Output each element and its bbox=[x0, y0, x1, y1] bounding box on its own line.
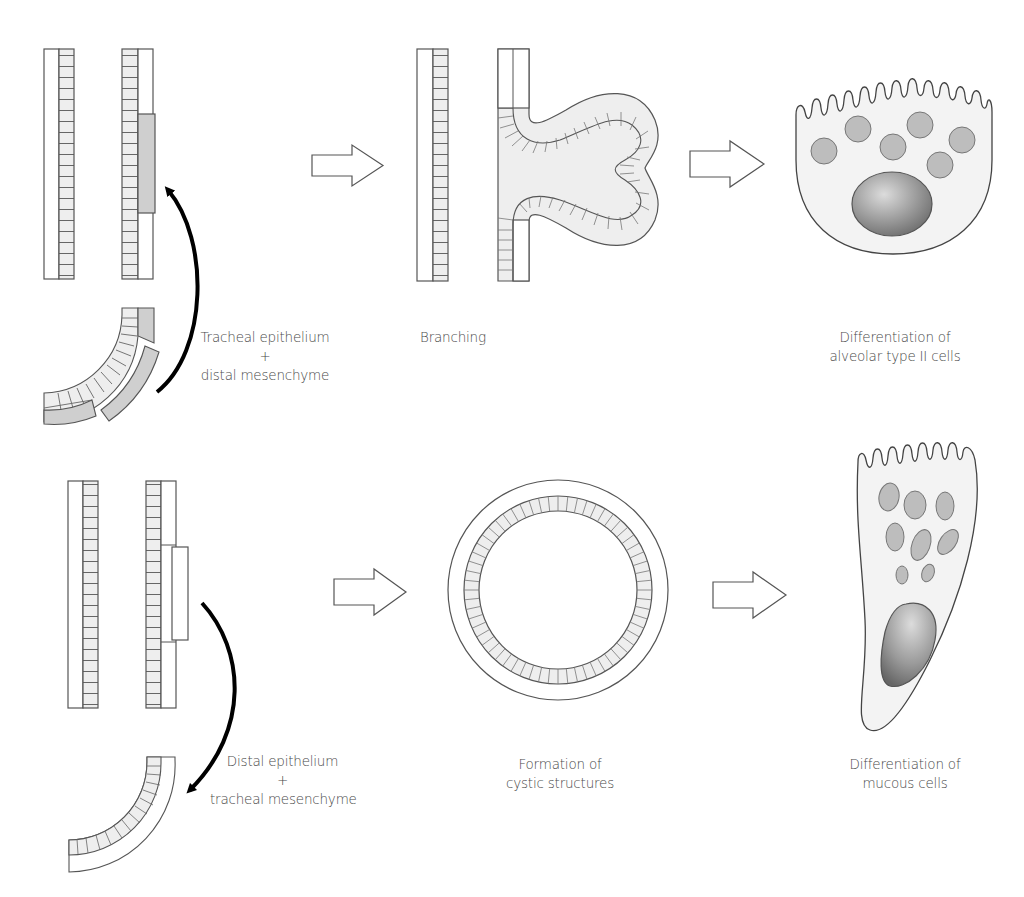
block-arrow-icon bbox=[690, 141, 764, 187]
distal-explant-with-tracheal-graft bbox=[146, 481, 188, 708]
distal-explant-curved bbox=[44, 308, 159, 424]
label-cystic-structures: Formation of cystic structures bbox=[495, 755, 625, 793]
tracheal-explant-with-distal-graft bbox=[122, 49, 155, 279]
explant-control-column bbox=[417, 49, 448, 281]
recombinant-curved-bottom bbox=[69, 757, 175, 872]
block-arrow-icon bbox=[713, 572, 786, 618]
branching-epithelium bbox=[498, 49, 658, 281]
block-arrow-icon bbox=[334, 569, 406, 615]
tracheal-explant-left bbox=[44, 49, 74, 279]
lung-recombination-diagram: Tracheal epithelium + distal mesenchyme … bbox=[0, 0, 1024, 897]
label-alveolar-type-ii-differentiation: Differentiation of alveolar type II cell… bbox=[820, 328, 970, 366]
label-tracheal-epithelium-distal-mesenchyme: Tracheal epithelium + distal mesenchyme bbox=[200, 328, 330, 385]
label-distal-epithelium-tracheal-mesenchyme: Distal epithelium + tracheal mesenchyme bbox=[210, 752, 355, 809]
label-branching: Branching bbox=[420, 328, 500, 347]
distal-explant-left bbox=[68, 481, 98, 708]
label-mucous-cell-differentiation: Differentiation of mucous cells bbox=[840, 755, 970, 793]
alveolar-type-ii-cell bbox=[796, 79, 992, 254]
block-arrow-icon bbox=[312, 145, 383, 186]
mucous-cell bbox=[857, 443, 977, 731]
cystic-structure bbox=[448, 480, 668, 700]
transfer-arrow-top bbox=[157, 190, 198, 392]
